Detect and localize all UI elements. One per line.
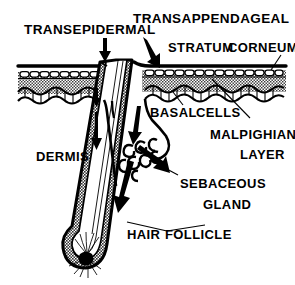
label-transappendageal: TRANSAPPENDAGEAL: [133, 11, 289, 26]
label-follicle: FOLLICLE: [165, 227, 232, 242]
skin-penetration-diagram: TRANSEPIDERMAL TRANSAPPENDAGEAL STRATUM …: [0, 0, 295, 285]
dermal-papilla: [79, 252, 94, 266]
label-malpighian: MALPIGHIAN: [210, 127, 295, 142]
granular-cell-row: [18, 70, 286, 79]
label-corneum: CORNEUM: [228, 40, 295, 55]
label-gland: GLAND: [203, 197, 251, 212]
diagram-canvas: TRANSEPIDERMAL TRANSAPPENDAGEAL STRATUM …: [0, 0, 295, 285]
label-dermis: DERMIS: [36, 149, 89, 164]
label-layer: LAYER: [240, 147, 285, 162]
label-basal: BASAL: [150, 105, 197, 120]
label-sebaceous: SEBACEOUS: [180, 176, 266, 191]
label-hair: HAIR: [127, 227, 161, 242]
label-stratum: STRATUM: [168, 40, 233, 55]
label-cells: CELLS: [196, 105, 241, 120]
